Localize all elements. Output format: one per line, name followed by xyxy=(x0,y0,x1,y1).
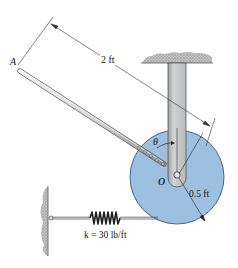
ceiling-support xyxy=(141,52,213,63)
rod xyxy=(20,70,164,165)
label-spring-constant: k = 30 lb/ft xyxy=(84,231,127,241)
pivot-pin xyxy=(174,172,180,178)
label-pivot-o: O xyxy=(158,177,165,187)
diagram-canvas xyxy=(0,0,238,268)
pendulum-disk-spring-diagram: A 2 ft θ O 0.5 ft k = 30 lb/ft xyxy=(0,0,238,268)
spring xyxy=(49,212,158,224)
label-point-a: A xyxy=(10,57,16,67)
label-disk-radius: 0.5 ft xyxy=(189,190,209,200)
label-rod-length: 2 ft xyxy=(100,55,116,65)
label-angle-theta: θ xyxy=(153,137,158,147)
wall xyxy=(41,186,49,256)
vertical-arm xyxy=(168,63,186,187)
